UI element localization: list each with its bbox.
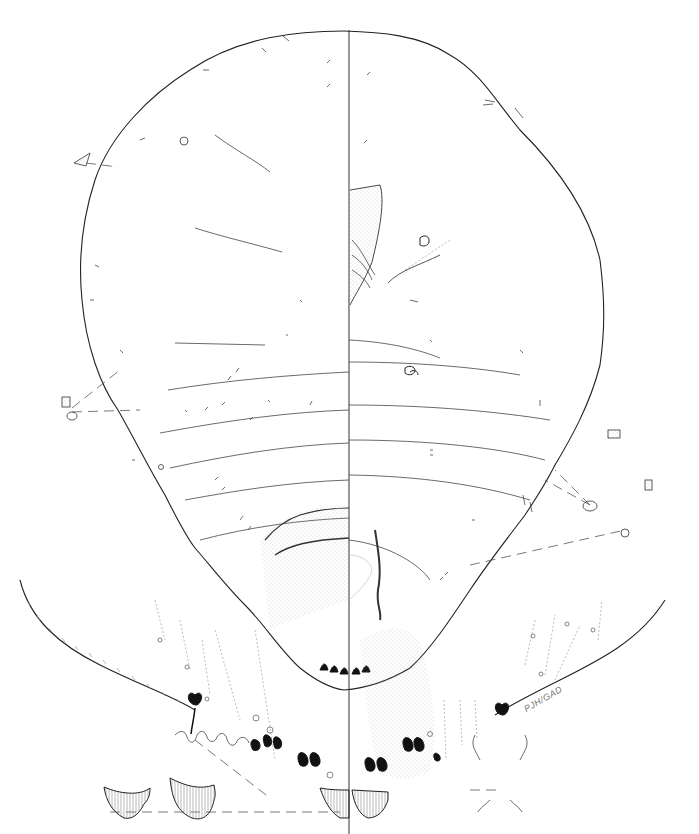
anal-lobe-icon: [104, 778, 388, 819]
ventral-stipple-region: [360, 628, 434, 778]
marginal-lobes: [175, 731, 527, 812]
margin-enlargement-left: [20, 580, 195, 710]
dorsal-setae: [90, 36, 330, 530]
trilocular-icon: [74, 153, 90, 166]
specimen-illustration: [0, 0, 699, 834]
leg-icon: [350, 185, 382, 305]
margin-enlargement-right: [495, 600, 665, 715]
dorsal-pore: [180, 137, 188, 145]
seta-icon: [62, 397, 652, 537]
ventral-sclerotization: [375, 530, 380, 620]
dorsal-pore: [159, 465, 164, 470]
anal-area: [260, 505, 372, 630]
spiracle-icon: [388, 236, 450, 283]
ventral-setae: [364, 72, 540, 580]
spiracle-icon: [405, 366, 418, 375]
